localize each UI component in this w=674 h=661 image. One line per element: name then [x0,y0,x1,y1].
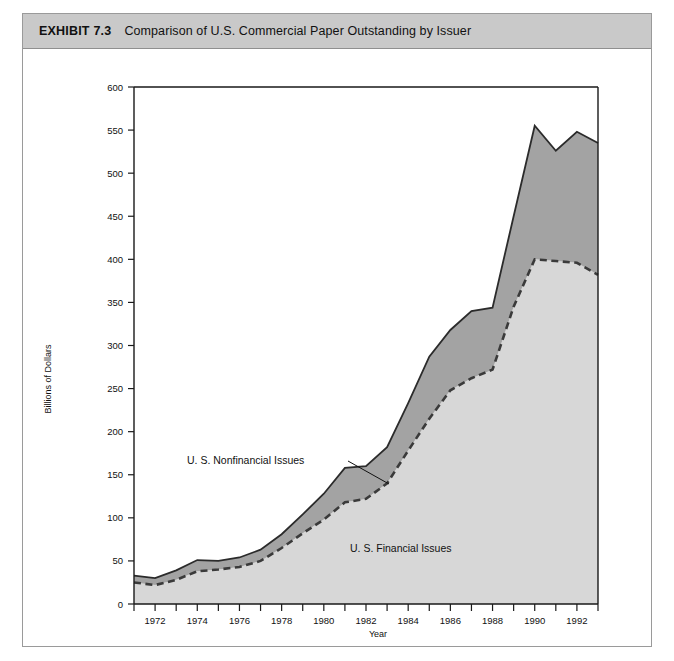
nonfinancial-label: U. S. Nonfinancial Issues [187,454,304,466]
y-tick-label: 450 [107,211,123,222]
x-tick-label: 1982 [355,615,376,626]
x-tick-label: 1974 [187,615,208,626]
y-tick-label: 200 [107,426,123,437]
y-axis-title: Billions of Dollars [43,344,53,414]
x-tick-label: 1984 [398,615,419,626]
y-axis-ticks: 050100150200250300350400450500550600 [107,82,134,610]
x-tick-label: 1976 [229,615,250,626]
x-tick-label: 1990 [524,615,545,626]
y-tick-label: 100 [107,512,123,523]
y-tick-label: 0 [118,599,123,610]
x-tick-label: 1978 [271,615,292,626]
y-tick-label: 150 [107,469,123,480]
screenshot-page: EXHIBIT 7.3 Comparison of U.S. Commercia… [0,0,674,661]
x-tick-label: 1992 [566,615,587,626]
exhibit-header: EXHIBIT 7.3 Comparison of U.S. Commercia… [23,14,651,49]
y-tick-label: 250 [107,383,123,394]
y-tick-label: 600 [107,82,123,93]
financial-label: U. S. Financial Issues [350,542,452,554]
x-tick-label: 1986 [440,615,461,626]
chart-area: 050100150200250300350400450500550600 197… [23,49,651,647]
y-tick-label: 550 [107,125,123,136]
y-tick-label: 400 [107,254,123,265]
y-tick-label: 350 [107,297,123,308]
exhibit-frame: EXHIBIT 7.3 Comparison of U.S. Commercia… [22,13,652,647]
x-axis-title: Year [369,629,387,639]
y-tick-label: 300 [107,340,123,351]
x-tick-label: 1972 [145,615,166,626]
x-axis-ticks: 1972197419761978198019821984198619881990… [134,604,598,626]
exhibit-label: EXHIBIT 7.3 [39,24,111,38]
exhibit-title: Comparison of U.S. Commercial Paper Outs… [124,24,471,38]
y-tick-label: 500 [107,168,123,179]
plot-group [134,126,598,604]
area-chart: 050100150200250300350400450500550600 197… [23,49,651,647]
y-tick-label: 50 [112,555,123,566]
x-tick-label: 1980 [313,615,334,626]
x-tick-label: 1988 [482,615,503,626]
